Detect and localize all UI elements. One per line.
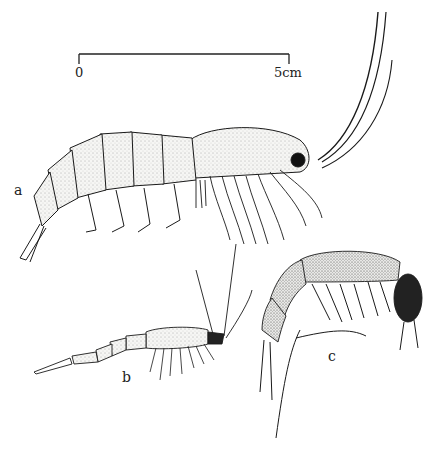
scale-bar [79, 54, 289, 64]
scale-start-label: 0 [75, 66, 83, 79]
figure-canvas: 0 5cm a b c [0, 0, 440, 451]
specimen-label-b: b [122, 370, 131, 384]
specimen-a-illustration [20, 12, 392, 262]
scale-end-label: 5cm [274, 66, 302, 79]
specimen-b-illustration [34, 244, 252, 380]
specimen-c-illustration [260, 251, 422, 438]
specimen-label-a: a [14, 183, 22, 197]
specimen-label-c: c [328, 349, 336, 363]
